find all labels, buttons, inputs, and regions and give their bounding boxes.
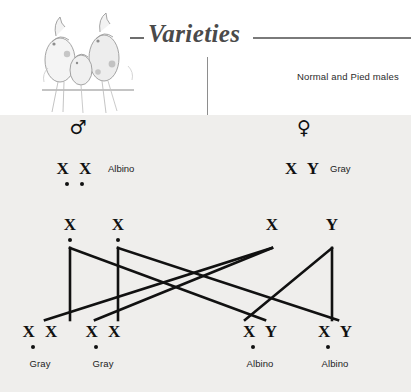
line-f1-to-offspring2 — [95, 248, 272, 320]
parent-female-phenotype-label: Gray — [330, 163, 351, 174]
allele-dot — [31, 345, 35, 349]
parent-male-genotype: X X — [44, 160, 104, 190]
gamete-male-2-allele-dots — [105, 237, 131, 246]
genetics-cross-diagram: ♂ ♀ X X Albino X Y Gray X X X Y X X — [0, 115, 411, 392]
offspring-4-phenotype-label: Albino — [305, 358, 365, 369]
page-title: Varieties — [148, 20, 241, 48]
parent-male-phenotype-label: Albino — [108, 163, 134, 174]
page-header: Varieties Normal and Pied males — [0, 0, 411, 115]
gamete-male-1-allele-dots — [57, 237, 83, 246]
offspring-4-chromosomes: X Y — [305, 323, 365, 340]
parent-female-allele-dots — [272, 181, 332, 190]
allele-dot — [80, 182, 84, 186]
gamete-female-2-allele-dots — [319, 237, 345, 246]
offspring-1: X X Gray — [10, 323, 70, 369]
offspring-2-phenotype-label: Gray — [73, 358, 133, 369]
parent-male-allele-dots — [44, 181, 104, 190]
gamete-male-2: X — [105, 216, 131, 246]
parent-female-chromosomes: X Y — [272, 160, 332, 177]
male-sex-symbol: ♂ — [60, 118, 96, 137]
allele-dot — [116, 238, 120, 242]
female-sex-symbol: ♀ — [286, 118, 322, 137]
parent-male-chromosomes: X X — [44, 160, 104, 177]
offspring-4-allele-dots — [305, 344, 365, 353]
gamete-female-1-allele-dots — [259, 237, 285, 246]
offspring-3: X Y Albino — [230, 323, 290, 369]
offspring-2-chromosomes: X X — [73, 323, 133, 340]
gamete-female-1: X — [259, 216, 285, 246]
offspring-3-allele-dots — [230, 344, 290, 353]
parent-female-genotype: X Y — [272, 160, 332, 190]
allele-dot — [251, 345, 255, 349]
title-leading-dash — [130, 37, 144, 39]
allele-dot — [94, 345, 98, 349]
offspring-1-allele-dots — [10, 344, 70, 353]
allele-dot — [65, 182, 69, 186]
offspring-4: X Y Albino — [305, 323, 365, 369]
line-f2-to-offspring3 — [245, 248, 332, 320]
offspring-3-phenotype-label: Albino — [230, 358, 290, 369]
offspring-1-phenotype-label: Gray — [10, 358, 70, 369]
gamete-female-1-chromosome: X — [259, 216, 285, 233]
gamete-female-2-chromosome: Y — [319, 216, 345, 233]
header-vertical-divider — [207, 57, 208, 115]
gamete-male-2-chromosome: X — [105, 216, 131, 233]
offspring-2-allele-dots — [73, 344, 133, 353]
line-m2-to-offspring4 — [118, 248, 338, 320]
diagram-caption: Normal and Pied males — [297, 71, 399, 82]
gamete-male-1-chromosome: X — [57, 216, 83, 233]
gamete-male-1: X — [57, 216, 83, 246]
gamete-female-2: Y — [319, 216, 345, 246]
cockatiel-illustration-image — [34, 8, 142, 116]
allele-dot — [68, 238, 72, 242]
offspring-3-chromosomes: X Y — [230, 323, 290, 340]
title-trailing-rule — [253, 37, 411, 39]
allele-dot — [326, 345, 330, 349]
offspring-2: X X Gray — [73, 323, 133, 369]
offspring-1-chromosomes: X X — [10, 323, 70, 340]
